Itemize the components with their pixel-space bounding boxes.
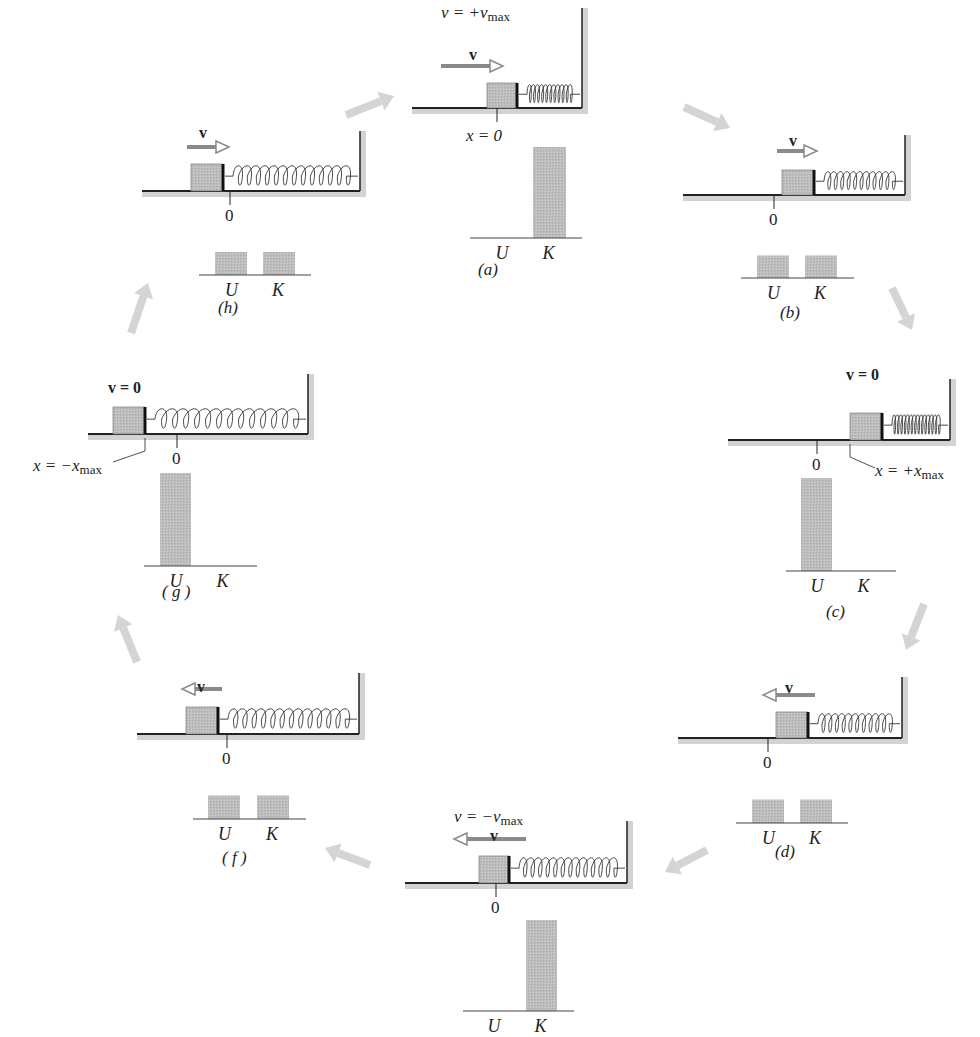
panel-c-position-label: x = +xmax <box>875 462 944 481</box>
panel-f-k-label: K <box>266 825 278 843</box>
panel-e-u-label: U <box>488 1017 501 1035</box>
shm-energy-diagram: UK(a)vv = +vmaxx = 0UK(b)v0UK(c)v = 00x … <box>0 0 980 1037</box>
energy-bar-chart-a <box>470 147 582 238</box>
panel-d-velocity-label: v <box>785 680 793 696</box>
energy-bar-chart-g <box>144 473 257 566</box>
spring-icon <box>220 709 357 728</box>
cycle-arrow-h-to-a-icon <box>346 92 394 115</box>
panel-c-zero-label: 0 <box>812 456 821 473</box>
panel-e-k-label: K <box>535 1017 547 1035</box>
panel-h-zero-label: 0 <box>225 207 234 224</box>
block <box>479 856 509 883</box>
kinetic-energy-bar <box>805 256 837 279</box>
panel-d-caption: (d) <box>775 843 795 860</box>
panel-b-caption: (b) <box>780 304 800 321</box>
kinetic-energy-bar <box>263 252 295 275</box>
panels <box>88 8 956 1011</box>
block <box>850 413 882 440</box>
spring-icon <box>225 166 358 185</box>
panel-g-k-label: K <box>217 572 229 590</box>
panel-g-caption: ( g ) <box>162 583 190 600</box>
panel-e-velocity-equation: v = −vmax <box>454 808 523 827</box>
kinetic-energy-bar <box>800 800 832 824</box>
block <box>186 707 218 734</box>
wall-shade <box>582 8 588 114</box>
energy-bar-chart-e <box>463 920 574 1011</box>
position-leader-line <box>850 444 875 468</box>
energy-bar-chart-f <box>193 796 306 820</box>
panel-f-zero-label: 0 <box>222 750 231 767</box>
panel-h-caption: (h) <box>218 299 238 316</box>
panel-b <box>683 135 911 278</box>
panel-a-k-label: K <box>543 244 555 262</box>
panel-b-u-label: U <box>767 284 780 302</box>
spring-icon <box>810 714 900 733</box>
panel-c-k-label: K <box>858 577 870 595</box>
spring-icon <box>147 409 306 428</box>
panel-c-caption: (c) <box>826 603 845 620</box>
wall-shade <box>905 135 911 201</box>
panel-e-zero-label: 0 <box>491 899 500 916</box>
potential-energy-bar <box>752 800 784 824</box>
block <box>487 83 517 108</box>
spring-icon <box>816 172 903 190</box>
cycle-arrow-d-to-e-icon <box>665 850 707 874</box>
spring-icon <box>884 415 948 434</box>
energy-bar-chart-b <box>741 256 854 279</box>
panel-b-zero-label: 0 <box>769 211 778 228</box>
kinetic-energy-bar <box>533 147 566 238</box>
panel-h-u-label: U <box>225 281 238 299</box>
wall-shade <box>359 673 365 740</box>
panel-a-velocity-label: v <box>469 47 477 63</box>
block <box>776 712 808 738</box>
panel-b-velocity-label: v <box>789 133 797 149</box>
position-leader-line <box>113 438 145 462</box>
kinetic-energy-bar <box>526 920 557 1011</box>
panel-g-zero-label: 0 <box>172 450 181 467</box>
velocity-arrow-right-icon <box>777 145 817 157</box>
cycle-arrow-f-to-g-icon <box>114 615 137 662</box>
panel-e-velocity-label: v <box>490 828 498 844</box>
panel-f-velocity-label: v <box>197 679 205 695</box>
panel-g <box>88 374 314 566</box>
wall-shade <box>950 379 956 446</box>
panel-g-velocity-label: v = 0 <box>108 380 141 396</box>
panel-d-zero-label: 0 <box>763 754 772 771</box>
potential-energy-bar <box>215 252 247 275</box>
potential-energy-bar <box>208 796 240 820</box>
panel-c-u-label: U <box>811 577 824 595</box>
wall-shade <box>627 821 633 889</box>
block <box>782 170 814 195</box>
panel-f-u-label: U <box>218 825 231 843</box>
cycle-arrow-c-to-d-icon <box>902 604 924 650</box>
potential-energy-bar <box>160 473 191 566</box>
diagram-canvas <box>0 0 980 1037</box>
panel-h <box>142 131 366 275</box>
panel-g-position-label: x = −xmax <box>33 457 102 476</box>
panel-e <box>405 821 633 1011</box>
panel-b-k-label: K <box>814 284 826 302</box>
panel-a-velocity-equation: v = +vmax <box>441 4 510 23</box>
panel-h-k-label: K <box>272 281 284 299</box>
cycle-arrow-e-to-f-icon <box>325 844 370 865</box>
panel-d <box>678 677 908 823</box>
energy-bar-chart-d <box>736 800 848 824</box>
cycle-arrow-a-to-b-icon <box>684 107 730 131</box>
velocity-arrow-right-icon <box>187 141 229 153</box>
panel-a-position-label: x = 0 <box>466 127 502 144</box>
panel-f-caption: ( f ) <box>222 849 247 866</box>
panel-h-velocity-label: v <box>199 125 207 141</box>
block <box>191 164 223 191</box>
energy-bar-chart-h <box>199 252 311 275</box>
potential-energy-bar <box>801 478 832 571</box>
cycle-arrow-b-to-c-icon <box>892 288 915 330</box>
spring-icon <box>519 85 580 103</box>
panel-d-u-label: U <box>762 829 775 847</box>
cycle-arrow-g-to-h-icon <box>131 283 153 333</box>
kinetic-energy-bar <box>257 796 289 820</box>
spring-icon <box>511 858 625 877</box>
panel-d-k-label: K <box>809 829 821 847</box>
panel-f <box>137 673 365 819</box>
wall-shade <box>308 374 314 440</box>
energy-bar-chart-c <box>786 478 896 571</box>
